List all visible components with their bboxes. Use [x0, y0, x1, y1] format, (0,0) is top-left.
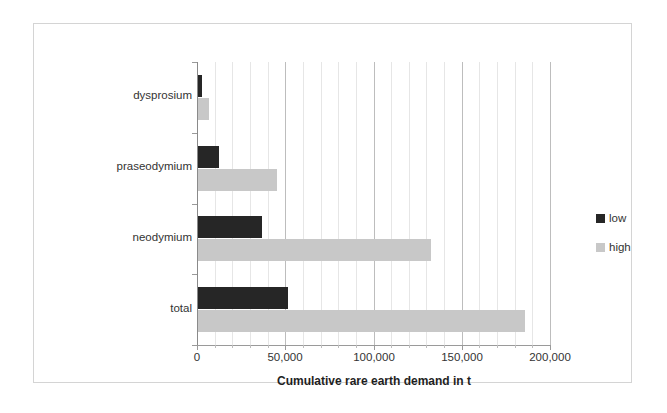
x-tick-minor — [532, 345, 533, 348]
bar-dysprosium-low — [198, 75, 202, 97]
gridline-minor — [391, 62, 392, 345]
bar-neodymium-low — [198, 216, 262, 238]
gridline-major — [374, 62, 375, 345]
x-tick-minor — [426, 345, 427, 348]
legend-label: low — [609, 212, 626, 224]
category-label-praseodymium: praseodymium — [72, 160, 192, 172]
x-axis-title: Cumulative rare earth demand in t — [197, 374, 551, 388]
gridline-minor — [515, 62, 516, 345]
x-tick-major — [550, 345, 551, 350]
x-tick-minor — [321, 345, 322, 348]
x-tick-minor — [479, 345, 480, 348]
x-tick-major — [285, 345, 286, 350]
bar-dysprosium-high — [198, 98, 209, 120]
x-tick-minor — [215, 345, 216, 348]
category-label-total: total — [72, 302, 192, 314]
legend-swatch-high — [596, 243, 605, 252]
y-tick — [192, 133, 197, 134]
bar-praseodymium-low — [198, 146, 219, 168]
legend-label: high — [609, 241, 631, 253]
x-tick-label: 0 — [157, 351, 237, 363]
x-tick-label: 200,000 — [510, 351, 590, 363]
gridline-minor — [532, 62, 533, 345]
x-tick-minor — [232, 345, 233, 348]
y-tick — [192, 204, 197, 205]
gridline-minor — [409, 62, 410, 345]
x-tick-minor — [250, 345, 251, 348]
x-tick-minor — [338, 345, 339, 348]
gridline-minor — [356, 62, 357, 345]
category-axis-line — [197, 62, 198, 346]
x-tick-minor — [515, 345, 516, 348]
chart-figure: dysprosiumpraseodymiumneodymiumtotal 050… — [0, 0, 667, 413]
gridline-major — [462, 62, 463, 345]
x-tick-label: 100,000 — [334, 351, 414, 363]
x-tick-minor — [497, 345, 498, 348]
gridline-minor — [338, 62, 339, 345]
x-tick-label: 150,000 — [422, 351, 502, 363]
gridline-major — [550, 62, 551, 345]
chart-frame: dysprosiumpraseodymiumneodymiumtotal 050… — [33, 23, 632, 383]
x-tick-major — [462, 345, 463, 350]
x-tick-minor — [356, 345, 357, 348]
category-label-neodymium: neodymium — [72, 231, 192, 243]
plot-area — [197, 62, 550, 345]
bar-total-high — [198, 310, 525, 332]
bar-neodymium-high — [198, 239, 431, 261]
bar-total-low — [198, 287, 288, 309]
y-tick — [192, 274, 197, 275]
x-tick-label: 50,000 — [245, 351, 325, 363]
y-tick — [192, 62, 197, 63]
gridline-minor — [497, 62, 498, 345]
gridline-minor — [321, 62, 322, 345]
y-tick — [192, 345, 197, 346]
x-tick-minor — [303, 345, 304, 348]
gridline-minor — [444, 62, 445, 345]
x-tick-minor — [268, 345, 269, 348]
x-tick-major — [374, 345, 375, 350]
gridline-minor — [479, 62, 480, 345]
gridline-minor — [303, 62, 304, 345]
gridline-minor — [426, 62, 427, 345]
legend-swatch-low — [596, 214, 605, 223]
x-tick-major — [197, 345, 198, 350]
legend-item-low: low — [596, 212, 631, 224]
x-tick-minor — [391, 345, 392, 348]
category-label-dysprosium: dysprosium — [72, 89, 192, 101]
bar-praseodymium-high — [198, 169, 277, 191]
x-tick-minor — [444, 345, 445, 348]
legend-item-high: high — [596, 241, 631, 253]
x-tick-minor — [409, 345, 410, 348]
chart-legend: lowhigh — [596, 212, 631, 270]
